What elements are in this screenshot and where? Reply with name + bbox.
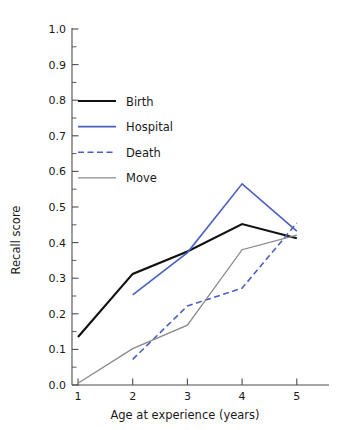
line-chart-svg: Recall score Age at experience (years) 0… [0, 0, 339, 430]
series-line-death [133, 223, 297, 359]
data-series-group [78, 184, 297, 383]
x-tick-label: 1 [75, 390, 82, 403]
legend-label-move: Move [126, 171, 157, 185]
y-tick-label: 0.4 [49, 237, 67, 250]
y-axis-title: Recall score [9, 206, 23, 275]
y-tick-label: 1.0 [49, 23, 67, 36]
y-tick-label: 0.7 [49, 130, 67, 143]
y-tick-label: 0.2 [49, 308, 67, 321]
y-tick-label: 0.5 [49, 201, 67, 214]
x-tick-label: 2 [129, 390, 136, 403]
x-axis-title: Age at experience (years) [110, 408, 259, 422]
y-tick-label: 0.6 [49, 165, 67, 178]
chart-legend: BirthHospitalDeathMove [78, 95, 173, 186]
y-tick-label: 0.0 [49, 379, 67, 392]
chart-figure: Recall score Age at experience (years) 0… [0, 0, 339, 430]
legend-label-birth: Birth [126, 95, 154, 109]
x-tick-label: 3 [184, 390, 191, 403]
series-line-birth [78, 224, 297, 337]
y-tick-label: 0.1 [49, 343, 67, 356]
y-tick-label: 0.8 [49, 94, 67, 107]
y-tick-label: 0.9 [49, 59, 67, 72]
y-axis-ticks: 0.00.10.20.30.40.50.60.70.80.91.0 [49, 23, 79, 392]
x-axis-ticks: 12345 [75, 379, 301, 404]
x-tick-label: 4 [239, 390, 246, 403]
legend-label-hospital: Hospital [126, 120, 173, 134]
series-line-move [78, 235, 297, 383]
y-tick-label: 0.3 [49, 272, 67, 285]
series-line-hospital [133, 184, 297, 295]
x-tick-label: 5 [293, 390, 300, 403]
legend-label-death: Death [126, 146, 161, 160]
